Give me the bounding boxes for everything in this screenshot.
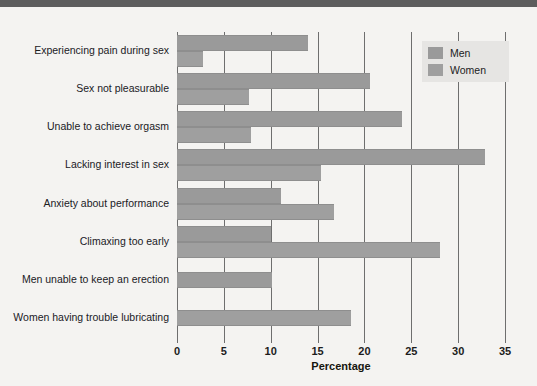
tick-30 bbox=[458, 337, 459, 343]
chart-page: Experiencing pain during sexSex not plea… bbox=[0, 7, 537, 386]
bar-men-3 bbox=[177, 149, 485, 165]
category-axis-labels: Experiencing pain during sexSex not plea… bbox=[0, 32, 174, 337]
category-label-1: Sex not pleasurable bbox=[0, 82, 174, 94]
category-label-0: Experiencing pain during sex bbox=[0, 44, 174, 56]
tick-25 bbox=[411, 337, 412, 343]
category-label-5: Climaxing too early bbox=[0, 235, 174, 247]
tick-5 bbox=[224, 337, 225, 343]
bar-women-5 bbox=[177, 242, 440, 258]
tick-label-30: 30 bbox=[452, 345, 464, 357]
category-label-2: Unable to achieve orgasm bbox=[0, 120, 174, 132]
bar-men-6 bbox=[177, 272, 272, 288]
x-axis-title: Percentage bbox=[177, 360, 505, 372]
tick-15 bbox=[318, 337, 319, 343]
legend-label-women: Women bbox=[450, 64, 486, 76]
bar-women-7 bbox=[177, 310, 351, 326]
bar-women-4 bbox=[177, 204, 334, 220]
tick-label-10: 10 bbox=[265, 345, 277, 357]
tick-10 bbox=[271, 337, 272, 343]
category-label-7: Women having trouble lubricating bbox=[0, 311, 174, 323]
bar-men-5 bbox=[177, 226, 271, 242]
bar-men-2 bbox=[177, 111, 402, 127]
tick-35 bbox=[505, 337, 506, 343]
bar-women-1 bbox=[177, 89, 249, 105]
category-label-3: Lacking interest in sex bbox=[0, 158, 174, 170]
legend-swatch-women bbox=[428, 64, 443, 76]
bar-men-4 bbox=[177, 188, 281, 204]
category-label-4: Anxiety about performance bbox=[0, 197, 174, 209]
chart-legend: Men Women bbox=[422, 41, 509, 82]
category-label-6: Men unable to keep an erection bbox=[0, 273, 174, 285]
bar-women-0 bbox=[177, 51, 203, 67]
tick-label-0: 0 bbox=[174, 345, 180, 357]
tick-label-5: 5 bbox=[221, 345, 227, 357]
gridline-25 bbox=[411, 32, 412, 337]
legend-swatch-men bbox=[428, 47, 443, 59]
tick-label-25: 25 bbox=[405, 345, 417, 357]
tick-0 bbox=[177, 337, 178, 343]
legend-item-men: Men bbox=[428, 45, 503, 61]
bar-women-3 bbox=[177, 165, 321, 181]
tick-label-15: 15 bbox=[311, 345, 323, 357]
legend-label-men: Men bbox=[450, 47, 470, 59]
tick-20 bbox=[364, 337, 365, 343]
tick-label-20: 20 bbox=[358, 345, 370, 357]
bar-men-1 bbox=[177, 73, 370, 89]
tick-label-35: 35 bbox=[499, 345, 511, 357]
legend-item-women: Women bbox=[428, 62, 503, 78]
bar-men-0 bbox=[177, 35, 308, 51]
page-top-band bbox=[0, 0, 537, 7]
bar-women-2 bbox=[177, 127, 251, 143]
